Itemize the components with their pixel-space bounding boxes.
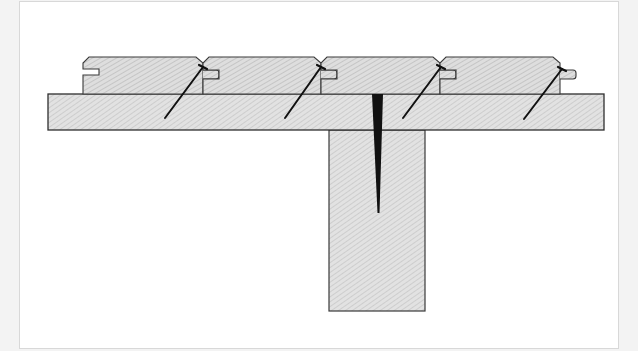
floorboard-3-tongue — [440, 70, 456, 79]
floorboard-1 — [83, 57, 203, 94]
floorboards — [83, 57, 576, 94]
subfloor — [48, 94, 604, 130]
floorboard-2 — [203, 57, 321, 94]
floorboard-4 — [440, 57, 560, 94]
floorboard-1-tongue — [203, 70, 219, 79]
floor-construction-diagram — [0, 0, 638, 351]
floorboard-2-tongue — [321, 70, 337, 79]
floorboard-3 — [321, 57, 440, 94]
floorboard-4-tongue — [560, 70, 576, 79]
